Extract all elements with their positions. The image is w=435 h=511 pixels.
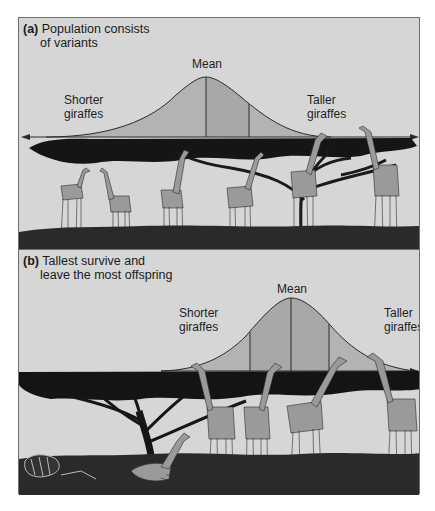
ground-a xyxy=(19,225,419,249)
panel-a-taller-line2: giraffes xyxy=(307,108,346,122)
panel-a-caption-line2: of variants xyxy=(23,36,149,50)
panel-a: (a) Population consists of variants Mean… xyxy=(19,18,419,249)
panel-b-caption-line2: leave the most offspring xyxy=(23,268,172,282)
panel-b: (b) Tallest survive and leave the most o… xyxy=(19,249,419,495)
panel-b-shorter-line1: Shorter xyxy=(179,307,218,321)
ground-b xyxy=(19,453,419,495)
panel-b-letter: (b) xyxy=(23,254,39,268)
panel-b-caption-line1: Tallest survive and xyxy=(42,254,145,268)
panel-a-letter: (a) xyxy=(23,22,38,36)
panel-b-illustration xyxy=(19,250,419,495)
panel-b-caption: (b) Tallest survive and leave the most o… xyxy=(23,254,172,282)
panel-b-shorter-line2: giraffes xyxy=(179,321,218,335)
panel-a-caption: (a) Population consists of variants xyxy=(23,22,149,50)
acacia-canopy-a xyxy=(29,138,417,164)
panel-a-shorter-line2: giraffes xyxy=(64,108,103,122)
acacia-canopy-b xyxy=(19,371,419,400)
panel-b-shorter-label: Shorter giraffes xyxy=(179,307,218,334)
panel-a-illustration xyxy=(19,18,419,249)
panel-a-shorter-label: Shorter giraffes xyxy=(64,94,103,121)
panel-a-mean-label: Mean xyxy=(192,58,222,72)
panel-b-mean-label: Mean xyxy=(277,283,307,297)
panel-a-taller-line1: Taller xyxy=(307,94,346,108)
panel-a-taller-label: Taller giraffes xyxy=(307,94,346,121)
panel-b-taller-line2: giraffes xyxy=(384,321,419,335)
figure-frame: (a) Population consists of variants Mean… xyxy=(18,17,420,494)
panel-a-caption-line1: Population consists xyxy=(42,22,150,36)
panel-a-shorter-line1: Shorter xyxy=(64,94,103,108)
panel-b-taller-line1: Taller xyxy=(384,307,419,321)
panel-b-taller-label: Taller giraffes xyxy=(384,307,419,334)
